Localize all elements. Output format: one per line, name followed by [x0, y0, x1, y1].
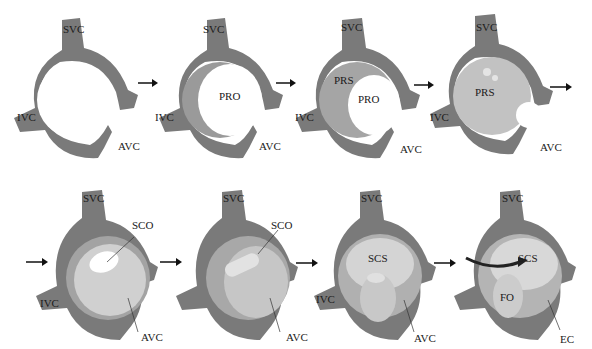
label-prs: PRS — [334, 75, 354, 86]
label-svc: SVC — [203, 24, 224, 35]
label-ivc: IVC — [316, 294, 335, 305]
label-avc: AVC — [286, 332, 308, 343]
label-svc: SVC — [63, 24, 84, 35]
label-sco: SCO — [271, 220, 292, 231]
label-ivc: IVC — [155, 112, 174, 123]
label-avc: AVC — [259, 141, 281, 152]
label-svc: SVC — [502, 193, 523, 204]
label-scs: SCS — [518, 253, 538, 264]
label-ivc: IVC — [295, 112, 314, 123]
arrow-4-to-5 — [550, 78, 574, 96]
panel-step-1: SVC IVC AVC — [0, 0, 148, 170]
label-avc: AVC — [540, 142, 562, 153]
atrium-ring-shape — [30, 180, 178, 349]
label-prs: PRS — [475, 87, 495, 98]
label-svc: SVC — [476, 22, 497, 33]
label-ivc: IVC — [40, 298, 59, 309]
label-pro: PRO — [219, 91, 240, 102]
label-scs: SCS — [368, 253, 388, 264]
panel-step-8: SVC SCS FO EC — [448, 180, 592, 349]
atrium-ring-shape — [448, 180, 592, 349]
label-ivc: IVC — [430, 112, 449, 123]
label-avc: AVC — [400, 144, 422, 155]
label-ec: EC — [560, 334, 574, 345]
label-fo: FO — [500, 292, 514, 303]
label-sco: SCO — [132, 220, 153, 231]
panel-step-2: SVC IVC PRO AVC — [145, 0, 293, 170]
label-ivc: IVC — [17, 112, 36, 123]
label-svc: SVC — [223, 193, 244, 204]
label-svc: SVC — [341, 22, 362, 33]
panel-step-5: SVC SCO IVC AVC — [30, 180, 178, 349]
label-avc: AVC — [141, 332, 163, 343]
label-avc: AVC — [414, 333, 436, 344]
label-avc: AVC — [118, 141, 140, 152]
label-pro: PRO — [358, 94, 379, 105]
label-svc: SVC — [83, 193, 104, 204]
label-svc: SVC — [361, 193, 382, 204]
